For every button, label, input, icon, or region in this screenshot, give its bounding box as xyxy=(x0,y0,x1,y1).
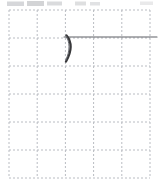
ink-annotation-layer xyxy=(0,0,158,182)
scanned-grid-page xyxy=(0,0,158,182)
